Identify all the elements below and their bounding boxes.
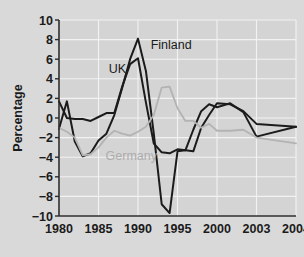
series-label-uk: UK	[109, 62, 127, 76]
y-tick-label: −6	[39, 170, 53, 184]
x-tick-label: 1990	[124, 222, 152, 236]
y-tick-label: −8	[39, 190, 53, 204]
y-axis-title: Percentage	[11, 84, 25, 151]
y-tick-label: 0	[46, 112, 53, 126]
line-chart-svg: 1086420−2−4−6−8−10 198019851990199520002…	[0, 0, 304, 257]
x-tick-label: 1980	[45, 222, 73, 236]
chart-figure: 1086420−2−4−6−8−10 198019851990199520002…	[0, 0, 304, 257]
y-tick-label: −4	[39, 151, 53, 165]
series-label-finland: Finland	[151, 38, 192, 52]
y-tick-label: 2	[46, 92, 53, 106]
x-tick-label: 2003	[243, 222, 271, 236]
x-tick-label: 1995	[164, 222, 192, 236]
x-axis-tick-labels: 1980198519901995200020032004	[45, 222, 304, 236]
series-label-germany: Germany	[106, 149, 158, 163]
y-tick-label: 10	[39, 14, 53, 28]
y-tick-label: 8	[46, 33, 53, 47]
y-tick-label: 6	[46, 53, 53, 67]
x-tick-label: 2004	[282, 222, 304, 236]
y-tick-label: −2	[39, 131, 53, 145]
x-tick-label: 1985	[85, 222, 113, 236]
y-tick-label: 4	[46, 72, 53, 86]
x-tick-label: 2000	[203, 222, 231, 236]
